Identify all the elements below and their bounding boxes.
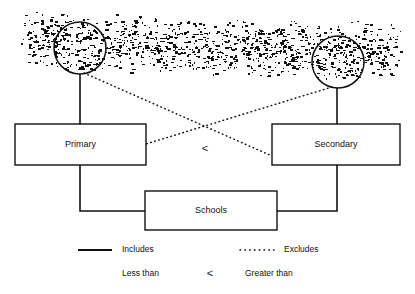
legend-greater-than-label: Greater than	[245, 268, 293, 278]
legend-includes-label: Includes	[122, 244, 154, 254]
node-primary[interactable]: Primary	[15, 124, 146, 165]
diagram-svg: PrimarySecondarySchools < IncludesExclud…	[0, 0, 415, 294]
node-secondary-label: Secondary	[314, 139, 358, 149]
node-schools[interactable]: Schools	[145, 191, 277, 230]
node-boxes: PrimarySecondarySchools	[15, 124, 400, 230]
left-circle-outline	[54, 22, 106, 74]
legend-cmp-glyph-label: <	[207, 267, 213, 279]
primary-to-schools	[80, 165, 145, 211]
node-primary-label: Primary	[65, 139, 96, 149]
legend: IncludesExcludesLess than<Greater than	[78, 244, 319, 279]
secondary-to-schools	[277, 165, 337, 211]
legend-less-than-label: Less than	[122, 268, 159, 278]
legend-excludes-label: Excludes	[284, 244, 319, 254]
node-schools-label: Schools	[195, 205, 228, 215]
center-comparison-symbol: <	[202, 142, 208, 154]
diagram-canvas: PrimarySecondarySchools < IncludesExclud…	[0, 0, 415, 294]
node-secondary[interactable]: Secondary	[272, 124, 400, 165]
right-circle-outline	[312, 36, 364, 88]
